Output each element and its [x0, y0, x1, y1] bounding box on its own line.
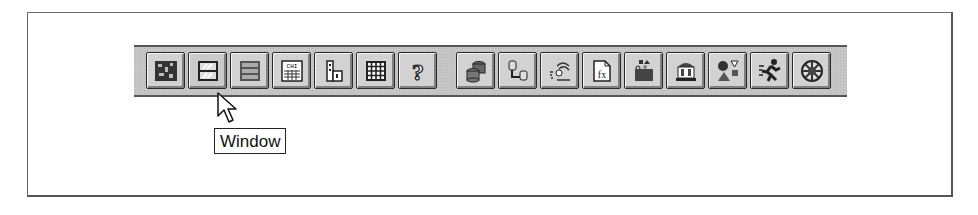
- function-document-icon: fx: [589, 58, 615, 84]
- databases-icon: [463, 58, 489, 84]
- file-cabinet-button[interactable]: [230, 52, 269, 89]
- circuit-board-button[interactable]: [146, 52, 185, 89]
- mouse-pointer-icon: [216, 92, 240, 128]
- toolbar: CHI ? fx: [134, 45, 847, 97]
- toolbox-icon: [631, 58, 657, 84]
- window-icon: [195, 58, 221, 84]
- tooltip: Window: [214, 128, 286, 154]
- grid-icon: [363, 58, 389, 84]
- factory-button[interactable]: [314, 52, 353, 89]
- svg-text:fx: fx: [597, 69, 605, 80]
- databases-button[interactable]: [456, 52, 495, 89]
- bank-icon: [673, 58, 699, 84]
- circuit-board-icon: [153, 58, 179, 84]
- function-document-button[interactable]: fx: [582, 52, 621, 89]
- chi-table-button[interactable]: CHI: [272, 52, 311, 89]
- runner-icon: [757, 58, 783, 84]
- wheel-icon: [799, 58, 825, 84]
- hand-scatter-icon: [547, 58, 573, 84]
- runner-button[interactable]: [750, 52, 789, 89]
- wheel-button[interactable]: [792, 52, 831, 89]
- toolbox-button[interactable]: [624, 52, 663, 89]
- help-button[interactable]: ?: [398, 52, 437, 89]
- figure-frame: [27, 12, 953, 197]
- database-link-icon: [505, 58, 531, 84]
- grid-button[interactable]: [356, 52, 395, 89]
- file-cabinet-icon: [237, 58, 263, 84]
- bank-button[interactable]: [666, 52, 705, 89]
- factory-icon: [321, 58, 347, 84]
- help-icon: ?: [405, 58, 431, 84]
- database-link-button[interactable]: [498, 52, 537, 89]
- shapes-button[interactable]: [708, 52, 747, 89]
- window-button[interactable]: [188, 52, 227, 89]
- hand-scatter-button[interactable]: [540, 52, 579, 89]
- shapes-icon: [715, 58, 741, 84]
- svg-text:CHI: CHI: [286, 63, 297, 70]
- svg-text:?: ?: [412, 59, 424, 84]
- chi-table-icon: CHI: [279, 58, 305, 84]
